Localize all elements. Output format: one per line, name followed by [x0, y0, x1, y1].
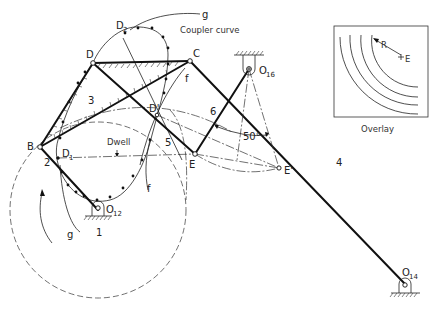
- label-link-4: 4: [336, 157, 342, 168]
- label-o12-sub: 12: [113, 210, 122, 218]
- label-d-prime: D': [149, 103, 159, 114]
- overlay-inset: R E: [334, 26, 428, 117]
- label-g-bottom: g: [67, 229, 73, 240]
- rotation-arrowhead: [40, 189, 45, 196]
- joint-b: [38, 145, 43, 150]
- dwell-arc-lower: [170, 110, 187, 200]
- overlay-label-e: E: [405, 54, 410, 64]
- label-o14-sub: 14: [409, 273, 418, 281]
- label-link-2: 2: [44, 157, 50, 168]
- label-g-top: g: [202, 9, 208, 20]
- label-o16-sub: 16: [266, 71, 275, 79]
- label-link-3: 3: [88, 95, 94, 106]
- label-d1-sub: 1: [69, 154, 73, 162]
- coupler-link-3: [40, 61, 190, 147]
- label-e: E: [189, 159, 195, 170]
- label-d2-sub: 2: [123, 26, 127, 34]
- overlay-label-r: R: [381, 40, 387, 50]
- label-f-bottom: f: [147, 183, 151, 194]
- rotation-arrow: [40, 193, 52, 243]
- point-e-prime: [277, 166, 281, 170]
- angle-arrowhead-left: [214, 124, 219, 129]
- coupler-curve-points: [57, 27, 170, 202]
- label-d: D: [86, 49, 94, 60]
- label-e-prime: E': [284, 165, 293, 176]
- linkage-diagram: B D C D' D 1 D 2 E E' O 12 O 14 O 16 1 2…: [0, 0, 436, 311]
- label-coupler-curve: Coupler curve: [180, 25, 240, 35]
- label-f-top: f: [185, 73, 189, 84]
- joint-c: [188, 59, 193, 64]
- label-c: C: [193, 48, 200, 59]
- angle-ray-2: [249, 69, 279, 168]
- label-link-1: 1: [96, 227, 102, 238]
- curve-g-bottom: [60, 165, 80, 232]
- label-dwell: Dwell: [107, 137, 130, 147]
- label-angle: 50°: [243, 131, 261, 142]
- link-6: [195, 69, 249, 154]
- label-link-6: 6: [210, 106, 216, 117]
- e-eprime-chord: [195, 154, 279, 168]
- joint-d: [91, 61, 96, 66]
- joint-e: [193, 152, 198, 157]
- angle-ray-1: [237, 69, 249, 160]
- e-eprime-arc: [195, 154, 279, 172]
- point-d1: [56, 156, 59, 159]
- label-b: B: [27, 141, 34, 152]
- label-link-5: 5: [165, 137, 171, 148]
- label-overlay: Overlay: [361, 124, 394, 134]
- dwell-line: [58, 154, 195, 158]
